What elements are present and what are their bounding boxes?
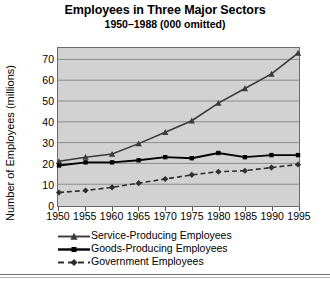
y-tick-label: 60 xyxy=(32,75,54,85)
y-tick-label: 70 xyxy=(32,54,54,64)
data-point-marker xyxy=(57,163,61,167)
y-axis-label: Number of Employees (millions) xyxy=(4,62,20,224)
legend-label: Service-Producing Employees xyxy=(91,229,232,242)
data-point-marker xyxy=(189,172,195,178)
series-line xyxy=(59,164,298,192)
data-point-marker xyxy=(56,189,62,195)
data-point-marker xyxy=(82,187,88,193)
data-point-marker xyxy=(269,153,273,157)
chart-title: Employees in Three Major Sectors xyxy=(0,3,330,18)
footer-divider-secondary xyxy=(0,277,330,278)
data-point-marker xyxy=(70,259,77,266)
data-point-marker xyxy=(162,176,168,182)
data-point-marker xyxy=(83,160,87,164)
data-point-marker xyxy=(242,168,248,174)
data-series-layer xyxy=(58,48,299,206)
data-point-marker xyxy=(163,155,167,159)
data-point-marker xyxy=(215,100,221,106)
legend-item: Service-Producing Employees xyxy=(57,229,307,242)
legend-item: Goods-Producing Employees xyxy=(57,242,307,255)
data-point-marker xyxy=(242,85,248,91)
legend-item: Government Employees xyxy=(57,255,307,268)
legend-label: Government Employees xyxy=(91,255,204,268)
data-point-marker xyxy=(216,151,220,155)
x-tick-label: 1995 xyxy=(279,210,319,222)
data-point-marker xyxy=(110,160,114,164)
legend-label: Goods-Producing Employees xyxy=(91,242,228,255)
series-2 xyxy=(57,151,300,168)
legend-symbol-triangle-icon xyxy=(57,229,91,242)
y-tick-label: 40 xyxy=(32,117,54,127)
plot-area xyxy=(57,47,300,207)
data-point-marker xyxy=(295,161,301,167)
data-point-marker xyxy=(243,155,247,159)
data-point-marker xyxy=(136,180,142,186)
data-point-marker xyxy=(295,50,301,56)
title-block: Employees in Three Major Sectors 1950–19… xyxy=(0,3,330,31)
data-point-marker xyxy=(268,165,274,171)
legend-symbol-square-icon xyxy=(57,242,91,255)
legend-symbol-diamond-icon xyxy=(57,255,91,268)
y-tick-label: 10 xyxy=(32,180,54,190)
data-point-marker xyxy=(109,184,115,190)
data-point-marker xyxy=(71,247,76,252)
y-tick-label: 20 xyxy=(32,159,54,169)
series-line xyxy=(59,53,298,161)
y-axis-tick-labels: 010203040506070 xyxy=(29,47,54,207)
footer-divider xyxy=(0,274,330,275)
data-point-marker xyxy=(136,158,140,162)
y-tick-label: 50 xyxy=(32,96,54,106)
data-point-marker xyxy=(296,153,300,157)
data-point-marker xyxy=(190,156,194,160)
chart-figure: Employees in Three Major Sectors 1950–19… xyxy=(0,0,330,283)
y-tick-label: 30 xyxy=(32,138,54,148)
series-1 xyxy=(56,50,301,164)
series-line xyxy=(59,153,298,165)
chart-subtitle: 1950–1988 (000 omitted) xyxy=(0,18,330,31)
x-axis-tick-labels: 1950195519601965197019751980198519901995 xyxy=(57,210,300,224)
series-3 xyxy=(56,161,301,195)
chart-legend: Service-Producing EmployeesGoods-Produci… xyxy=(57,229,307,268)
data-point-marker xyxy=(215,169,221,175)
